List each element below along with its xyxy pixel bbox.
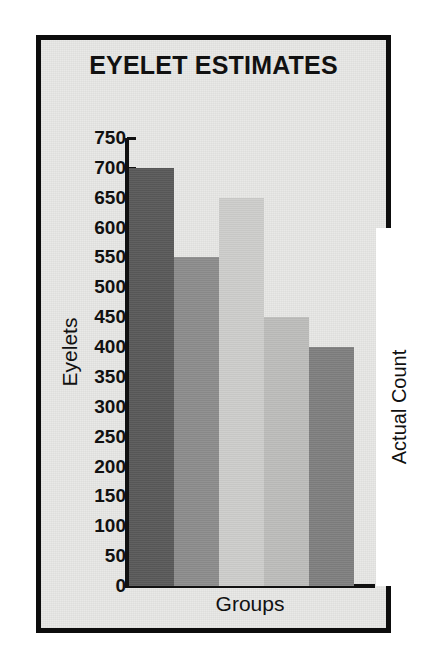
y-tick-label: 100 [70,516,126,535]
y-tick-mark [127,137,136,140]
plot-area: 7507006506005505004504003503002502001501… [41,40,386,628]
y-tick-label: 250 [70,427,126,446]
y-tick-label: 200 [70,457,126,476]
chart-frame: EYELET ESTIMATES 75070065060055050045040… [36,35,391,633]
bar-2 [174,257,219,586]
y-tick-label: 700 [70,158,126,177]
y-tick-label: 550 [70,247,126,266]
bar-texture [264,317,309,586]
y-tick-label: 150 [70,486,126,505]
bar-3 [219,198,264,586]
actual-count-label: Actual Count [387,257,410,557]
y-tick-label: 600 [70,218,126,237]
actual-count-bar: Actual Count [376,228,421,586]
bar-texture [309,347,354,586]
y-tick-label: 0 [70,576,126,595]
bar-5 [309,347,354,586]
x-axis-title: Groups [125,592,375,616]
y-axis-title: Eyelets [58,287,82,417]
bar-texture [174,257,219,586]
bar-4 [264,317,309,586]
y-tick-label: 650 [70,188,126,207]
bar-1 [129,168,174,586]
y-tick-label: 750 [70,128,126,147]
chart-page: EYELET ESTIMATES 75070065060055050045040… [0,0,427,668]
bar-texture [129,168,174,586]
bar-texture [219,198,264,586]
y-tick-label: 50 [70,546,126,565]
